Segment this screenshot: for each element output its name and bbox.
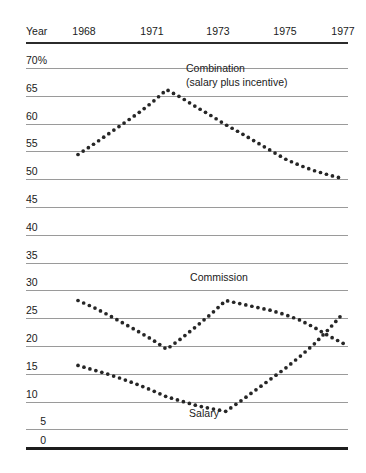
x-tick-1977: 1977 xyxy=(331,24,354,39)
series-layer xyxy=(26,45,348,449)
x-axis-title: Year xyxy=(26,24,47,39)
x-tick-1971: 1971 xyxy=(140,24,163,39)
series-salary xyxy=(76,315,342,413)
annotation-combination: Combination (salary plus incentive) xyxy=(186,62,288,89)
x-tick-1973: 1973 xyxy=(206,24,229,39)
series-commission xyxy=(76,299,345,350)
plot-area: 70% 65 60 55 50 45 40 35 30 25 20 15 10 … xyxy=(26,45,348,449)
x-axis-labels: Year 1968 1971 1973 1975 1977 xyxy=(26,24,348,39)
x-tick-1975: 1975 xyxy=(273,24,296,39)
annotation-salary-line1: Salary xyxy=(189,407,219,421)
annotation-combination-line2: (salary plus incentive) xyxy=(186,76,288,90)
series-combination xyxy=(76,89,340,180)
x-tick-1968: 1968 xyxy=(72,24,95,39)
annotation-commission: Commission xyxy=(190,271,248,285)
axis-top-rule xyxy=(26,42,348,44)
annotation-combination-line1: Combination xyxy=(186,62,288,76)
sales-compensation-chart: Year 1968 1971 1973 1975 1977 70% 65 60 … xyxy=(0,0,366,473)
annotation-salary: Salary xyxy=(189,407,219,421)
annotation-commission-line1: Commission xyxy=(190,271,248,285)
